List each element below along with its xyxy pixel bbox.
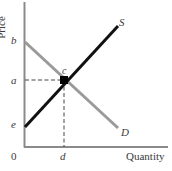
demand-intercept-label: b [11, 35, 17, 46]
supply-demand-chart: Price Quantity 0 b a e d c S D [0, 0, 172, 171]
origin-label: 0 [11, 151, 17, 162]
equilibrium-marker [60, 76, 68, 84]
x-axis-label: Quantity [126, 151, 165, 162]
equilibrium-quantity-label: d [60, 151, 66, 162]
equilibrium-point-label: c [62, 66, 66, 76]
supply-intercept-label: e [11, 119, 16, 130]
supply-curve [25, 26, 118, 127]
supply-curve-label: S [119, 17, 125, 28]
demand-curve [25, 42, 118, 128]
chart-canvas [0, 0, 172, 171]
y-axis-label: Price [0, 16, 7, 39]
equilibrium-price-label: a [11, 75, 17, 86]
demand-curve-label: D [121, 127, 129, 138]
